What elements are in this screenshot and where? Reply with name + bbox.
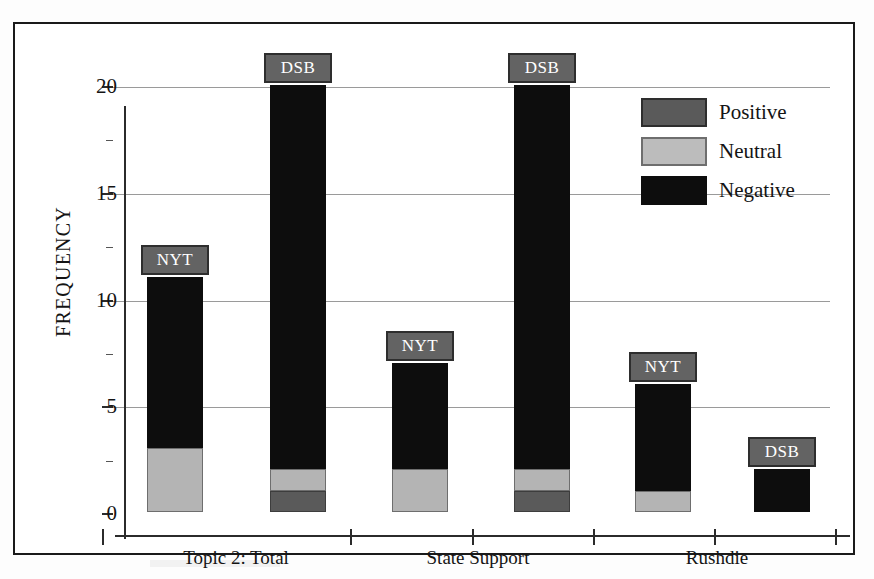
bar-segment-neutral[interactable] — [635, 491, 691, 512]
x-axis-tick — [472, 529, 474, 545]
y-axis-title: FREQUENCY — [52, 162, 75, 382]
x-axis-category-label: State Support — [368, 547, 588, 569]
y-axis-tick-label: 0 — [79, 503, 117, 524]
bar-source-label: DSB — [508, 53, 576, 83]
y-axis-tick-label: 5 — [79, 396, 117, 417]
bar-segment-neutral[interactable] — [270, 469, 326, 490]
legend-item[interactable]: Negative — [641, 176, 846, 215]
legend-swatch-positive — [641, 98, 707, 127]
y-axis-tick-label: 15 — [79, 183, 117, 204]
x-axis-tick — [714, 529, 716, 545]
figure-canvas: 20151050 FREQUENCY Topic 2: TotalState S… — [0, 0, 874, 579]
stacked-bar[interactable] — [514, 85, 570, 512]
x-axis-category-label: Topic 2: Total — [126, 547, 346, 569]
y-axis-tick-label: 20 — [79, 76, 117, 97]
bar-segment-positive[interactable] — [514, 491, 570, 512]
bar-segment-neutral[interactable] — [147, 448, 203, 512]
bar-segment-negative[interactable] — [754, 469, 810, 512]
bar-source-label: NYT — [629, 352, 697, 382]
gridline — [112, 87, 830, 88]
bar-segment-negative[interactable] — [392, 363, 448, 470]
legend-item[interactable]: Neutral — [641, 137, 846, 176]
stacked-bar[interactable] — [270, 85, 326, 512]
stacked-bar[interactable] — [392, 363, 448, 512]
legend-label: Negative — [719, 177, 795, 203]
legend-swatch-negative — [641, 176, 707, 205]
stacked-bar[interactable] — [635, 384, 691, 512]
x-axis-tick — [102, 529, 104, 545]
bar-segment-negative[interactable] — [147, 277, 203, 448]
gridline — [112, 301, 830, 302]
y-axis-tick-label: 10 — [79, 290, 117, 311]
x-axis-tick — [835, 529, 837, 545]
bar-source-label: NYT — [386, 331, 454, 361]
x-axis-line — [115, 535, 850, 537]
y-axis-line — [124, 106, 126, 539]
legend-label: Positive — [719, 99, 787, 125]
bar-segment-negative[interactable] — [635, 384, 691, 491]
bar-segment-neutral[interactable] — [514, 469, 570, 490]
bar-segment-positive[interactable] — [270, 491, 326, 512]
bar-source-label: DSB — [264, 53, 332, 83]
bar-segment-negative[interactable] — [270, 85, 326, 469]
bar-segment-neutral[interactable] — [392, 469, 448, 512]
x-axis-category-label: Rushdie — [607, 547, 827, 569]
chart-frame: 20151050 FREQUENCY Topic 2: TotalState S… — [13, 22, 855, 555]
stacked-bar[interactable] — [147, 277, 203, 512]
legend-item[interactable]: Positive — [641, 98, 846, 137]
legend-label: Neutral — [719, 138, 782, 164]
x-axis-tick — [593, 529, 595, 545]
legend-swatch-neutral — [641, 137, 707, 166]
gridline — [112, 407, 830, 408]
bar-segment-negative[interactable] — [514, 85, 570, 469]
x-axis-tick — [350, 529, 352, 545]
bar-source-label: DSB — [748, 437, 816, 467]
legend: PositiveNeutralNegative — [641, 98, 846, 215]
stacked-bar[interactable] — [754, 469, 810, 512]
bar-source-label: NYT — [141, 245, 209, 275]
